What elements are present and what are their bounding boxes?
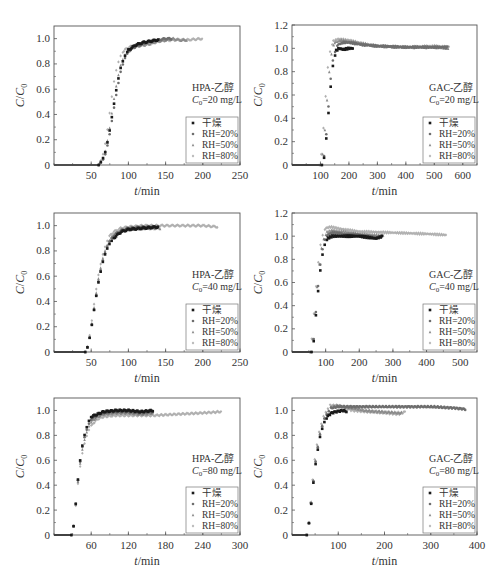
y-tick-label: 0.6 (36, 454, 50, 466)
y-tick-label: 1.0 (36, 32, 50, 44)
y-tick-label: 1.0 (274, 404, 288, 416)
y-tick-label: 0.2 (36, 320, 50, 332)
y-axis-label: C/C0 (251, 271, 267, 294)
x-tick-label: 200 (341, 169, 358, 181)
y-tick-label: 0.2 (36, 504, 50, 516)
x-tick-label: 100 (120, 169, 137, 181)
series-0 (54, 408, 154, 536)
series-1 (292, 231, 383, 353)
panel-annotation-concentration: C0=20 mg/L (192, 94, 242, 107)
legend-label: RH=80% (202, 338, 238, 348)
legend-label: RH=50% (202, 140, 238, 150)
y-tick-label: 0.4 (36, 295, 50, 307)
legend-label: 干燥 (439, 305, 459, 315)
x-tick-label: 50 (86, 356, 98, 368)
y-tick-label: 0.4 (36, 108, 50, 120)
panel-gac-40: 00.20.40.60.81.01.2100200300400500t/minC… (251, 207, 479, 386)
series-3 (292, 403, 406, 536)
series-2 (292, 404, 403, 537)
x-tick-label: 500 (452, 356, 469, 368)
y-tick-label: 0.6 (36, 270, 50, 282)
x-axis-label: t/min (372, 371, 397, 385)
x-tick-label: 400 (398, 169, 415, 181)
y-tick-label: 0.2 (274, 322, 288, 334)
panel-annotation-title: GAC-乙醇 (429, 81, 473, 93)
y-tick-label: 0.6 (36, 83, 50, 95)
panel-annotation-concentration: C0=40 mg/L (192, 281, 242, 294)
x-axis-label: t/min (372, 184, 397, 198)
legend-label: 干燥 (202, 488, 222, 498)
x-tick-label: 400 (418, 356, 435, 368)
y-tick-label: 0.8 (36, 57, 50, 69)
panel-annotation-concentration: C0=80 mg/L (429, 465, 479, 478)
x-tick-label: 500 (426, 169, 443, 181)
x-tick-label: 100 (120, 356, 137, 368)
legend-label: RH=20% (202, 129, 238, 139)
panel-annotation-concentration: C0=40 mg/L (429, 281, 479, 294)
legend-label: RH=20% (439, 499, 475, 509)
legend-label: RH=20% (202, 316, 238, 326)
y-tick-label: 0 (283, 346, 289, 358)
y-tick-label: 0.8 (36, 429, 50, 441)
series-2 (54, 226, 161, 353)
legend-label: RH=50% (202, 510, 238, 520)
x-axis-label: t/min (372, 554, 397, 568)
x-tick-label: 300 (232, 539, 249, 551)
legend-label: RH=50% (202, 327, 238, 337)
y-tick-label: 1.2 (274, 19, 288, 31)
y-axis-label: C/C0 (13, 84, 29, 107)
series-0 (292, 409, 348, 536)
series-3 (54, 37, 203, 167)
panel-annotation-title: GAC-乙醇 (429, 452, 473, 464)
y-axis-label: C/C0 (251, 83, 267, 106)
y-tick-label: 1.0 (274, 230, 288, 242)
series-0 (54, 38, 159, 166)
series-1 (54, 410, 154, 536)
x-tick-label: 600 (455, 169, 472, 181)
series-2 (54, 411, 154, 537)
panel-gac-20: 00.20.40.60.81.01.2100200300400500600t/m… (251, 19, 479, 199)
legend: 干燥RH=20%RH=50%RH=80% (423, 487, 475, 533)
y-tick-label: 0 (45, 346, 51, 358)
y-axis-label: C/C0 (13, 271, 29, 294)
y-tick-label: 1.2 (274, 207, 288, 219)
legend-label: RH=50% (439, 510, 475, 520)
y-tick-label: 0.2 (274, 135, 288, 147)
legend: 干燥RH=20%RH=50%RH=80% (186, 487, 238, 533)
series-0 (54, 225, 159, 353)
series-1 (54, 225, 159, 353)
panel-annotation-concentration: C0=80 mg/L (192, 465, 242, 478)
series-0 (292, 234, 383, 353)
legend-label: 干燥 (439, 488, 459, 498)
y-tick-label: 1.0 (36, 404, 50, 416)
y-tick-label: 0.2 (274, 504, 288, 516)
x-axis-label: t/min (134, 184, 159, 198)
breakthrough-curves-figure: 00.20.40.60.81.050100150200250t/minC/C0H… (0, 0, 501, 574)
x-tick-label: 200 (351, 356, 368, 368)
x-axis-label: t/min (134, 371, 159, 385)
legend-label: RH=20% (439, 129, 475, 139)
panel-annotation-title: GAC-乙醇 (429, 268, 473, 280)
series-0 (292, 47, 354, 167)
x-tick-label: 50 (86, 169, 98, 181)
legend-label: RH=80% (202, 151, 238, 161)
panel-annotation-title: HPA-乙醇 (192, 452, 234, 464)
y-tick-label: 0.6 (274, 454, 288, 466)
x-tick-label: 250 (232, 356, 249, 368)
x-tick-label: 300 (423, 539, 440, 551)
legend-label: 干燥 (202, 118, 222, 128)
panel-hpa-20: 00.20.40.60.81.050100150200250t/minC/C0H… (13, 26, 249, 198)
series-group (54, 36, 203, 166)
legend: 干燥RH=20%RH=50%RH=80% (186, 304, 238, 350)
y-tick-label: 0.8 (274, 429, 288, 441)
y-tick-label: 0.4 (274, 112, 288, 124)
y-tick-label: 0.8 (274, 65, 288, 77)
y-axis-label: C/C0 (251, 455, 267, 478)
x-tick-label: 100 (317, 356, 334, 368)
y-tick-label: 0 (283, 529, 289, 541)
x-tick-label: 300 (369, 169, 386, 181)
y-tick-label: 0.6 (274, 276, 288, 288)
legend-label: RH=80% (202, 521, 238, 531)
series-2 (292, 229, 384, 354)
x-tick-label: 400 (469, 539, 486, 551)
